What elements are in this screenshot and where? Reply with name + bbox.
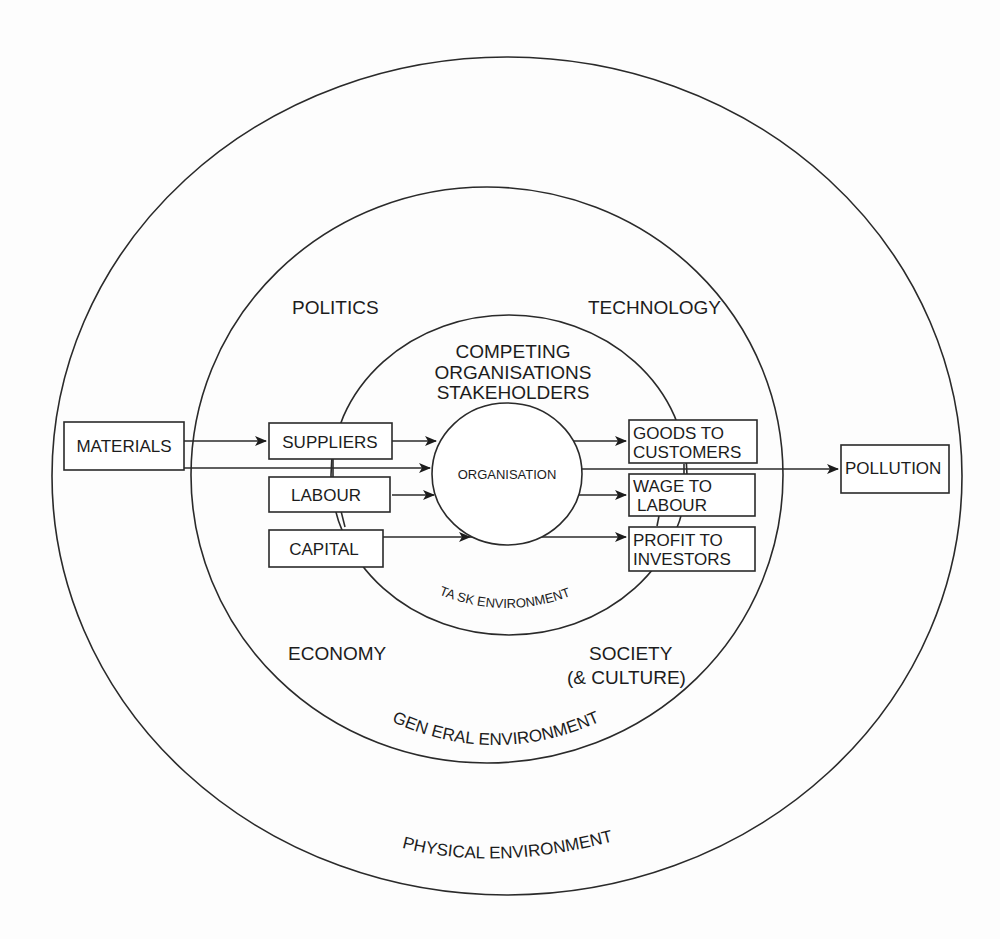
profit-to-investors-box: PROFIT TO INVESTORS: [629, 527, 755, 571]
materials-box: MATERIALS: [64, 422, 184, 470]
wage-label-line1: WAGE TO: [633, 477, 712, 496]
politics-label: POLITICS: [292, 297, 379, 318]
wage-label-line2: LABOUR: [637, 496, 707, 515]
task-heading-line3: STAKEHOLDERS: [437, 382, 590, 403]
capital-box: CAPITAL: [269, 530, 383, 567]
environment-diagram: ORGANISATION MATERIALS SUPPLIERS LABOUR …: [0, 0, 1000, 939]
pollution-box: POLLUTION: [841, 445, 949, 493]
materials-label: MATERIALS: [76, 437, 171, 456]
general-environment-text: GEN ERAL ENVIRONMENT: [390, 708, 602, 749]
technology-label: TECHNOLOGY: [588, 297, 721, 318]
profit-label-line2: INVESTORS: [633, 550, 731, 569]
labour-box: LABOUR: [269, 477, 390, 512]
capital-label: CAPITAL: [289, 540, 359, 559]
physical-environment-label: PHYSICAL ENVIRONMENT: [401, 827, 614, 863]
labour-label: LABOUR: [291, 486, 361, 505]
pollution-label: POLLUTION: [845, 459, 941, 478]
wage-to-labour-box: WAGE TO LABOUR: [629, 474, 755, 516]
task-environment-label: TA SK ENVIRONMENT: [438, 583, 572, 611]
society-label-line2: (& CULTURE): [567, 667, 686, 688]
economy-label: ECONOMY: [288, 643, 387, 664]
organisation-label: ORGANISATION: [458, 467, 557, 482]
suppliers-label: SUPPLIERS: [282, 433, 377, 452]
physical-environment-text: PHYSICAL ENVIRONMENT: [401, 827, 614, 863]
task-heading-line2: ORGANISATIONS: [435, 362, 592, 383]
goods-label-line1: GOODS TO: [633, 424, 724, 443]
suppliers-box: SUPPLIERS: [269, 423, 392, 459]
goods-to-customers-box: GOODS TO CUSTOMERS: [629, 420, 757, 463]
society-label-line1: SOCIETY: [589, 643, 673, 664]
general-environment-label: GEN ERAL ENVIRONMENT: [390, 708, 602, 749]
profit-label-line1: PROFIT TO: [633, 531, 723, 550]
task-environment-text: TA SK ENVIRONMENT: [438, 583, 572, 611]
task-heading-line1: COMPETING: [455, 341, 570, 362]
wage-profit-connector: [657, 516, 659, 526]
labour-capital-connector: [341, 511, 345, 527]
goods-label-line2: CUSTOMERS: [633, 443, 741, 462]
